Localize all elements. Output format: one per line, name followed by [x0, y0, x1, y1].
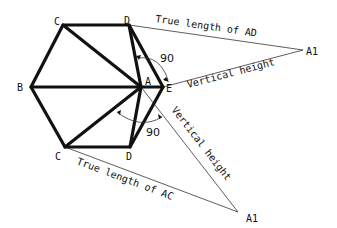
vertex-label-c-top: C	[54, 16, 60, 27]
vertex-label-a: A	[145, 76, 151, 87]
hexagon-true-length-diagram: C D B A E C D A1 A1 90 90 True length of…	[0, 0, 337, 228]
vertex-label-c-bottom: C	[55, 151, 61, 162]
vertex-label-b: B	[17, 82, 23, 93]
angle-label-top: 90	[160, 52, 174, 65]
vertex-label-a1-top: A1	[306, 46, 318, 57]
vertex-label-d-bottom: D	[126, 151, 132, 162]
arrowhead-bottom-right	[158, 114, 162, 119]
angle-arc-bottom	[117, 112, 162, 122]
annotation-vertical-height-top: Vertical height	[186, 56, 276, 90]
annotation-vertical-height-bottom: Vertical height	[169, 104, 233, 182]
annotation-true-length-ad: True length of AD	[155, 13, 258, 38]
vertex-label-d-top: D	[124, 15, 130, 26]
vertex-label-e: E	[166, 83, 172, 94]
vertex-label-a1-bottom: A1	[246, 213, 258, 224]
annotation-true-length-ac: True length of AC	[75, 156, 175, 202]
angle-label-bottom: 90	[146, 126, 160, 139]
edge-ac-bottom	[65, 87, 141, 147]
